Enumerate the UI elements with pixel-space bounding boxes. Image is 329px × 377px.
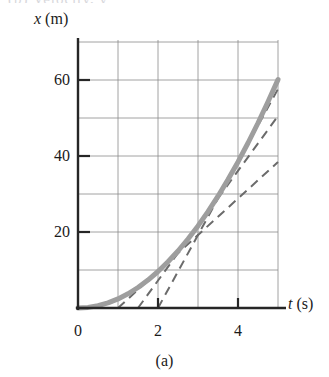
y-axis-major-ticks (78, 80, 90, 232)
grid-horizontal-lines (78, 42, 278, 308)
plot-canvas (0, 0, 329, 377)
figure-caption: (a) (0, 352, 329, 370)
figure-root: (b) Velocity, v x (m) t (s) 60 40 20 0 2… (0, 0, 329, 377)
